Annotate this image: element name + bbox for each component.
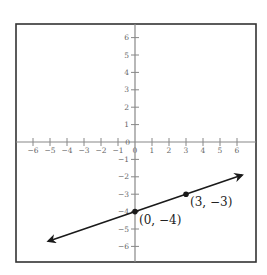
- data-point: [132, 209, 138, 215]
- y-tick-label: −3: [118, 190, 129, 199]
- x-axis-ticks: −6−5−4−3−2−101234560: [27, 138, 239, 156]
- x-tick-label: 1: [150, 146, 155, 155]
- y-tick-label: −2: [118, 172, 129, 181]
- y-tick-label: 1: [124, 120, 129, 129]
- x-tick-label: −3: [78, 146, 89, 155]
- y-tick-label: 2: [124, 103, 129, 112]
- x-tick-label: −5: [44, 146, 55, 155]
- x-tick-label: 2: [167, 146, 172, 155]
- x-tick-label: 4: [201, 146, 206, 155]
- y-tick-label: 5: [124, 51, 129, 60]
- y-tick-label: 3: [124, 85, 129, 94]
- x-tick-label: −2: [95, 146, 106, 155]
- labeled-points: (0, −4)(3, −3): [132, 191, 232, 226]
- point-label: (0, −4): [139, 213, 181, 227]
- x-tick-label: 5: [218, 146, 223, 155]
- y-tick-label: 4: [124, 68, 129, 77]
- x-tick-label: −1: [112, 146, 123, 155]
- x-tick-label: −4: [61, 146, 72, 155]
- x-tick-label: −6: [27, 146, 38, 155]
- y-tick-label: 6: [124, 33, 129, 42]
- origin-label: 0: [125, 138, 130, 147]
- data-point: [183, 191, 189, 197]
- x-tick-label: 6: [235, 146, 240, 155]
- y-tick-label: −5: [118, 225, 129, 234]
- point-label: (3, −3): [190, 195, 232, 209]
- y-tick-label: −6: [118, 242, 129, 251]
- x-tick-label: 3: [184, 146, 189, 155]
- y-tick-label: −1: [118, 155, 129, 164]
- x-tick-label: 0: [133, 146, 138, 155]
- coordinate-plane: −6−5−4−3−2−101234560 −6−5−4−3−2−1123456 …: [0, 0, 267, 275]
